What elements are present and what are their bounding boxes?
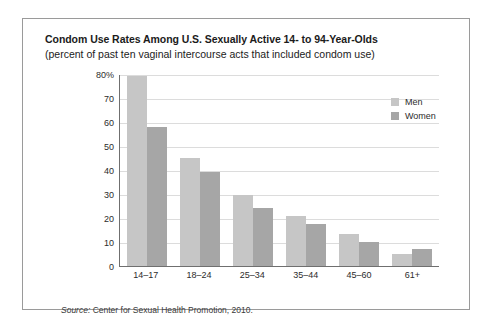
y-axis-tick-label: 20 [104,214,114,224]
source-text: Center for Sexual Health Promotion, 2010… [90,305,253,315]
y-axis-tick-label: 0 [109,262,114,272]
chart-title: Condom Use Rates Among U.S. Sexually Act… [45,33,453,45]
bar-group [173,75,226,266]
legend-label-men: Men [405,97,423,107]
title-block: Condom Use Rates Among U.S. Sexually Act… [45,33,453,60]
x-axis-tick-label: 35–44 [279,270,332,280]
bar-women [359,242,379,266]
legend-swatch-women-icon [391,112,399,120]
x-axis-tick-label: 45–60 [332,270,385,280]
bar-group [226,75,279,266]
bar-men [180,158,200,266]
legend-item-women: Women [391,111,436,121]
y-axis-tick-label: 80% [96,70,114,80]
bar-group [280,75,333,266]
legend-swatch-men-icon [391,98,399,106]
x-axis-tick-label: 61+ [386,270,439,280]
x-axis-tick-labels: 14–1718–2425–3435–4445–6061+ [119,270,439,280]
x-axis-tick-label: 14–17 [119,270,172,280]
bar-men [339,234,359,266]
bar-women [253,208,273,266]
y-axis-tick-label: 10 [104,238,114,248]
x-axis-tick-label: 25–34 [226,270,279,280]
bar-women [306,224,326,266]
bar-women [147,127,167,266]
bar-men [233,195,253,266]
y-axis-tick-label: 30 [104,190,114,200]
bar-men [392,254,412,266]
source-note: Source: Center for Sexual Health Promoti… [61,305,253,315]
y-axis-tick-label: 40 [104,166,114,176]
bar-group [333,75,386,266]
legend-label-women: Women [405,111,436,121]
bar-men [127,76,147,266]
y-axis-tick-label: 50 [104,142,114,152]
x-axis-tick-label: 18–24 [172,270,225,280]
bar-men [286,216,306,266]
figure-frame: Condom Use Rates Among U.S. Sexually Act… [22,18,470,310]
legend-item-men: Men [391,97,436,107]
bar-women [200,172,220,266]
chart-subtitle: (percent of past ten vaginal intercourse… [45,48,453,60]
source-label: Source: [61,305,90,315]
bar-women [412,249,432,266]
chart-legend: Men Women [391,97,436,125]
y-axis-tick-label: 70 [104,94,114,104]
y-axis-tick-label: 60 [104,118,114,128]
bar-group [120,75,173,266]
